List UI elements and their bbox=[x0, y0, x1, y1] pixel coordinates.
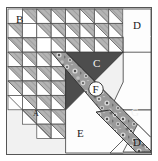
grid-row bbox=[8, 81, 66, 95]
grid-row bbox=[8, 23, 123, 37]
geometric-tiling-figure: B A C D E F G D bbox=[0, 0, 158, 161]
grid-row bbox=[8, 38, 123, 52]
label-g: G bbox=[131, 106, 139, 118]
label-f: F bbox=[93, 83, 99, 95]
figure-root: B A C D E F G D bbox=[0, 0, 158, 161]
grid-row bbox=[22, 110, 65, 124]
label-d-bottom: D bbox=[133, 136, 141, 148]
label-e: E bbox=[77, 127, 84, 139]
grid-row bbox=[37, 124, 66, 138]
label-d-top: D bbox=[133, 19, 141, 31]
grid-row bbox=[8, 67, 66, 81]
label-b: B bbox=[16, 13, 23, 25]
label-a: A bbox=[33, 109, 39, 118]
label-c: C bbox=[93, 57, 100, 69]
grid-row bbox=[8, 9, 123, 23]
grid-row bbox=[8, 95, 66, 109]
